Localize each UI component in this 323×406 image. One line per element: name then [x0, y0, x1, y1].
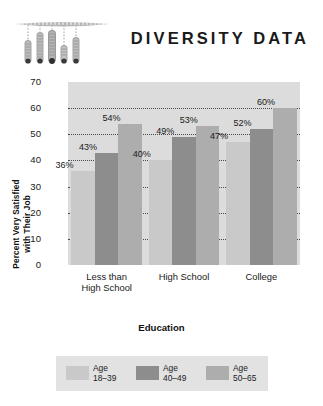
bar-value-label: 53%: [180, 116, 198, 125]
bar-value-label: 36%: [55, 161, 73, 170]
y-axis-tick-label: 30: [30, 182, 41, 192]
legend-swatch: [206, 366, 229, 380]
x-axis-category-label: High School: [159, 271, 210, 282]
legend-swatch: [66, 366, 89, 380]
y-axis-tick-label: 70: [30, 77, 41, 87]
bar-value-label: 54%: [102, 114, 120, 123]
bar: [250, 129, 274, 265]
gridline: [68, 108, 300, 109]
y-axis-tick-label: 40: [30, 156, 41, 166]
legend-label: Age18–39: [93, 363, 116, 383]
page-title: DIVERSITY DATA: [131, 29, 309, 48]
hanging-slider-gauges-icon: [14, 18, 110, 66]
bar-value-label: 49%: [156, 127, 174, 136]
bar: [95, 153, 119, 265]
plot-area: 010203040506070 36%43%54%40%49%53%47%52%…: [68, 82, 300, 265]
bar: [118, 124, 142, 265]
bar-value-label: 47%: [210, 132, 228, 141]
bar-chart: Percent Very Satisfied with Their Job 01…: [0, 72, 323, 340]
y-axis-tick-label: 10: [30, 234, 41, 244]
y-axis-tick-label: 20: [30, 208, 41, 218]
x-axis-label: Education: [0, 322, 323, 333]
legend-swatch: [136, 366, 159, 380]
bar-value-label: 60%: [257, 98, 275, 107]
x-axis-category-label: College: [245, 271, 277, 282]
chart-legend: Age18–39Age40–49Age50–65: [56, 356, 268, 391]
bar: [71, 171, 95, 265]
bar: [273, 108, 297, 265]
y-axis-tick-label: 50: [30, 129, 41, 139]
page-header: DIVERSITY DATA: [0, 0, 323, 72]
bar: [172, 137, 196, 265]
bar: [149, 160, 173, 265]
y-axis-label-line1: Percent Very Satisfied: [11, 179, 21, 268]
y-axis-tick-label: 60: [30, 103, 41, 113]
y-axis-label-line2: with Their Job: [21, 195, 31, 253]
bar-value-label: 43%: [79, 143, 97, 152]
bar: [196, 126, 220, 265]
x-axis-category-label: Less thanHigh School: [81, 271, 132, 293]
y-axis-tick-label: 0: [36, 260, 41, 270]
bar: [226, 142, 250, 265]
legend-label: Age40–49: [163, 363, 186, 383]
bar-value-label: 52%: [234, 119, 252, 128]
bar-value-label: 40%: [133, 150, 151, 159]
legend-label: Age50–65: [233, 363, 256, 383]
